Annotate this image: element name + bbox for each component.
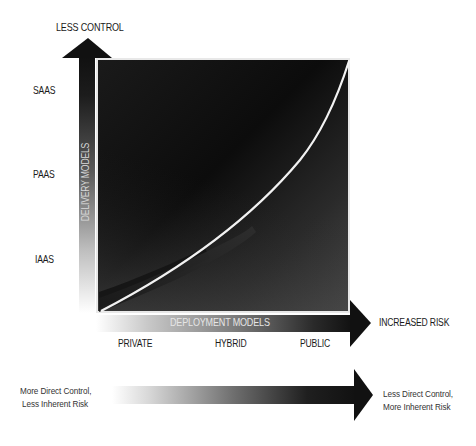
- control-risk-scale-arrow: [112, 369, 373, 421]
- increased-risk-label: INCREASED RISK: [379, 317, 449, 328]
- delivery-models-axis-label: DELIVERY MODELS: [80, 144, 91, 221]
- less-control-label: LESS CONTROL: [56, 21, 124, 33]
- level-paas: PAAS: [33, 169, 55, 180]
- risk-matrix-box: [96, 58, 350, 313]
- more-direct-control-label: More Direct Control,: [20, 384, 91, 397]
- level-hybrid: HYBRID: [215, 338, 246, 349]
- level-saas: SAAS: [33, 85, 55, 96]
- level-private: PRIVATE: [118, 338, 152, 349]
- level-public: PUBLIC: [300, 338, 330, 349]
- more-inherent-risk-label: More Inherent Risk: [383, 400, 450, 413]
- less-inherent-risk-label: Less Inherent Risk: [22, 397, 88, 410]
- deployment-models-axis-label: DEPLOYMENT MODELS: [170, 316, 270, 328]
- cloud-risk-diagram: [0, 0, 476, 446]
- level-iaas: IAAS: [35, 254, 54, 265]
- less-direct-control-label: Less Direct Control,: [383, 387, 453, 400]
